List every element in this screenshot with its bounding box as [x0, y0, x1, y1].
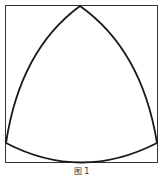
reuleaux-left-arc	[6, 6, 80, 143]
bounding-square	[6, 6, 158, 163]
reuleaux-right-arc	[80, 6, 157, 143]
reuleaux-triangle-diagram	[0, 0, 163, 179]
figure-caption: 图 1	[0, 167, 163, 177]
reuleaux-bottom-arc	[6, 143, 157, 163]
